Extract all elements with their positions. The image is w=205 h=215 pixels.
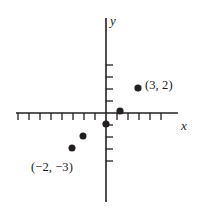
x-axis-label: x [181,119,187,132]
y-axis-label: y [110,14,116,27]
x-axis-tick-marks [18,113,161,120]
scatter-plot-canvas [0,0,205,215]
data-point [116,107,123,114]
data-point [80,133,87,140]
axis-group [16,18,178,202]
data-point [102,120,109,127]
data-point-group [69,84,142,151]
point-label-minus2-minus3: (−2, −3) [31,161,73,174]
coordinate-plane-figure: y x (3, 2) (−2, −3) [0,0,205,215]
point-label-3-2: (3, 2) [145,79,173,92]
data-point [134,84,141,91]
data-point [69,145,76,152]
